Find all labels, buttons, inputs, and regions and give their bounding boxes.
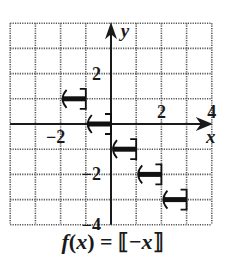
y-tick-label: 2 — [92, 64, 101, 84]
step-segment — [113, 139, 136, 159]
y-tick-label: −2 — [82, 164, 101, 184]
function-caption: f(x) = ⟦−x⟧ — [0, 229, 225, 255]
x-tick-label: −2 — [46, 127, 65, 147]
y-tick-label: −4 — [82, 215, 101, 230]
y-axis-label: y — [119, 20, 130, 41]
x-axis-label: x — [205, 126, 216, 147]
x-tick-label: 4 — [207, 102, 216, 122]
tick-labels: −2242−2−4xy — [46, 20, 216, 230]
x-tick-label: 2 — [157, 102, 166, 122]
step-segments — [63, 89, 187, 210]
step-segment — [63, 89, 86, 109]
step-function-graph: −2242−2−4xy — [0, 0, 225, 230]
step-segment — [163, 190, 186, 210]
step-segment — [138, 164, 161, 184]
step-segment — [88, 114, 111, 134]
caption-f: f — [61, 229, 68, 254]
